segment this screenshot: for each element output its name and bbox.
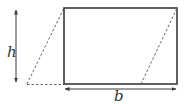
base-label: b xyxy=(114,87,124,104)
rectangle xyxy=(64,8,177,84)
parallelogram-area-diagram: h b xyxy=(0,0,184,104)
right-dashed-line xyxy=(141,8,177,84)
height-label: h xyxy=(7,43,17,61)
left-dashed-triangle xyxy=(27,8,64,85)
